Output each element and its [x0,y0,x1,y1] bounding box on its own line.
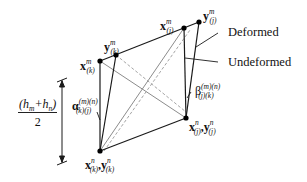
beam-element-deformation-diagram: xm(k) ym(k) xm(j) ym(j) xn(k),yn(k) xn(j… [0,0,307,182]
node-xjm [181,25,186,30]
legend-deformed: Deformed [228,26,279,39]
arrowhead-top [60,81,65,87]
deformed-leader [196,33,218,47]
node-xkm [97,58,102,63]
fraction-denominator: 2 [18,113,57,130]
label-xkm: xm(k) [80,57,95,73]
arrowhead-bottom [60,156,65,162]
label-ykm: ym(k) [104,38,119,54]
node-yjm [196,19,201,24]
label-xjn-yjn: xn(j),yn(j) [189,118,216,134]
label-beta: β(m)(n)(j)(k) [195,82,214,98]
undeformed-leader [185,58,218,62]
label-alpha: α(m)(n)(k)(j) [72,97,91,113]
height-fraction: (hm+hn) 2 [18,97,57,130]
height-dimension [57,78,67,165]
legend-undeformed: Undeformed [228,56,291,69]
label-xjm: xm(j) [160,17,174,33]
label-yjm: ym(j) [203,7,217,23]
node-xjn-yjn [183,115,188,120]
fraction-numerator: (hm+hn) [18,97,57,113]
label-xkn-ykn: xn(k),yn(k) [85,156,114,172]
node-xkn-ykn [97,148,102,153]
